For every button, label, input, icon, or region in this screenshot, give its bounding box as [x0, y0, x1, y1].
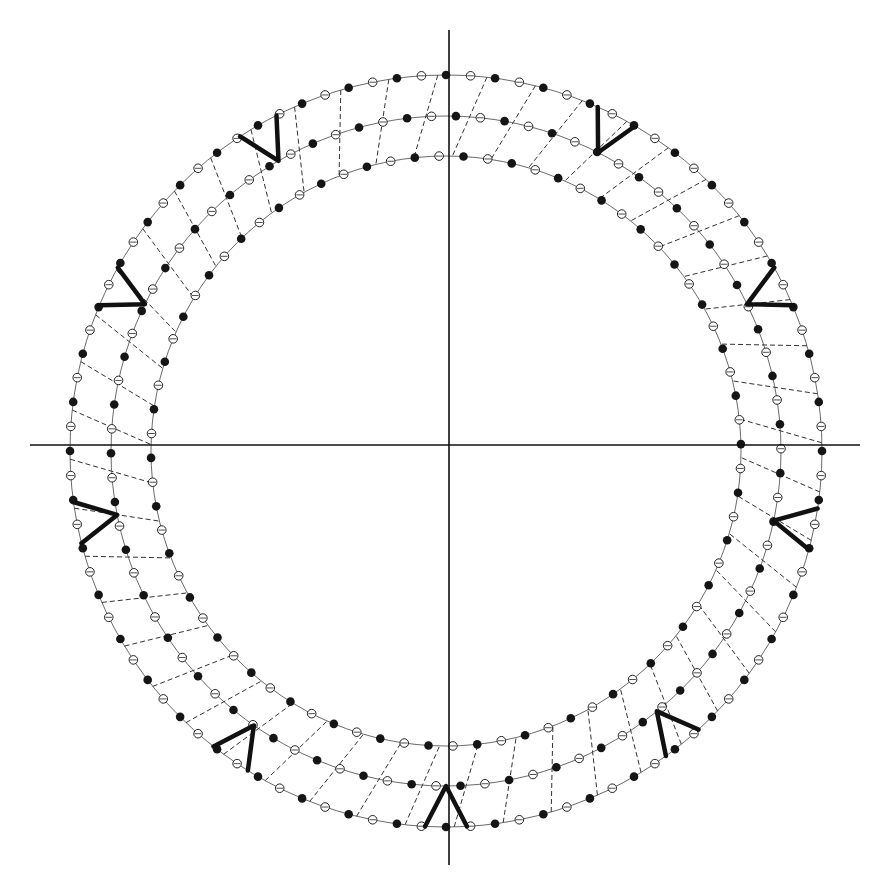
- filled-bead: [317, 179, 326, 188]
- filled-bead: [586, 794, 595, 803]
- axes: [30, 30, 860, 865]
- filled-bead: [679, 622, 688, 631]
- filled-bead: [194, 672, 203, 681]
- filled-bead: [107, 449, 116, 458]
- filled-bead: [734, 488, 743, 497]
- filled-bead: [254, 772, 263, 781]
- diagram-canvas: [0, 0, 880, 889]
- filled-bead: [116, 635, 125, 644]
- ring-outer: [66, 71, 827, 832]
- filled-bead: [500, 117, 509, 126]
- filled-bead: [548, 129, 557, 138]
- filled-bead: [407, 780, 416, 789]
- filled-bead: [539, 810, 548, 819]
- filled-bead: [393, 74, 402, 83]
- filled-bead: [110, 400, 119, 409]
- filled-bead: [254, 121, 263, 130]
- filled-bead: [805, 349, 814, 358]
- filled-bead: [521, 731, 530, 740]
- filled-bead: [213, 148, 222, 157]
- filled-bead: [313, 756, 322, 765]
- filled-bead: [636, 225, 645, 234]
- filled-bead: [269, 734, 278, 743]
- filled-bead: [698, 300, 707, 309]
- filled-bead: [539, 84, 548, 93]
- filled-bead: [66, 447, 75, 456]
- filled-bead: [247, 668, 256, 677]
- filled-bead: [491, 74, 500, 83]
- filled-bead: [708, 713, 717, 722]
- filled-bead: [638, 718, 647, 727]
- filled-bead: [776, 420, 785, 429]
- ring-middle-track: [111, 116, 781, 786]
- filled-bead: [176, 181, 185, 190]
- filled-bead: [137, 307, 146, 316]
- filled-bead: [205, 271, 214, 280]
- filled-bead: [265, 162, 274, 171]
- filled-bead: [673, 204, 682, 213]
- filled-bead: [733, 281, 742, 290]
- filled-bead: [768, 372, 777, 381]
- filled-bead: [491, 819, 500, 828]
- filled-bead: [635, 173, 644, 182]
- filled-bead: [609, 690, 618, 699]
- filled-bead: [424, 741, 433, 750]
- filled-bead: [586, 99, 595, 108]
- ring-middle: [107, 112, 786, 790]
- filled-bead: [473, 740, 482, 749]
- ring-lattice-diagram: [0, 0, 880, 889]
- filled-bead: [191, 225, 200, 234]
- v-marker-icon: [425, 786, 467, 826]
- filled-bead: [147, 454, 156, 463]
- filled-bead: [139, 591, 148, 600]
- filled-bead: [735, 609, 744, 618]
- filled-bead: [723, 536, 732, 545]
- filled-bead: [789, 591, 798, 600]
- filled-bead: [754, 325, 763, 334]
- filled-bead: [456, 781, 465, 790]
- filled-bead: [671, 745, 680, 754]
- v-marker-icon: [774, 509, 818, 550]
- filled-bead: [79, 544, 88, 553]
- filled-bead: [179, 312, 188, 321]
- filled-bead: [186, 593, 195, 602]
- filled-bead: [755, 564, 764, 573]
- filled-bead: [670, 260, 679, 269]
- filled-bead: [152, 502, 161, 511]
- filled-bead: [505, 776, 514, 785]
- filled-bead: [344, 810, 353, 819]
- v-markers: [73, 107, 817, 826]
- filled-bead: [122, 545, 131, 554]
- filled-bead: [452, 112, 461, 121]
- filled-bead: [376, 734, 385, 743]
- filled-bead: [150, 405, 159, 414]
- filled-bead: [403, 114, 412, 123]
- filled-bead: [814, 496, 823, 505]
- filled-bead: [143, 218, 152, 227]
- filled-bead: [704, 581, 713, 590]
- filled-bead: [359, 771, 368, 780]
- filled-bead: [731, 391, 740, 400]
- filled-bead: [286, 697, 295, 706]
- filled-bead: [552, 763, 561, 772]
- filled-bead: [298, 794, 307, 803]
- filled-bead: [94, 591, 103, 600]
- filled-bead: [554, 174, 563, 183]
- filled-bead: [740, 676, 749, 685]
- filled-bead: [671, 148, 680, 157]
- filled-bead: [120, 352, 129, 361]
- bead-rings: [66, 71, 827, 832]
- ring-inner: [147, 152, 745, 750]
- filled-bead: [507, 159, 516, 168]
- filled-bead: [143, 676, 152, 685]
- filled-bead: [708, 650, 717, 659]
- filled-bead: [705, 240, 714, 249]
- filled-bead: [597, 744, 606, 753]
- filled-bead: [229, 706, 238, 715]
- filled-bead: [363, 162, 372, 171]
- filled-bead: [226, 191, 235, 200]
- filled-bead: [237, 234, 246, 243]
- filled-bead: [718, 344, 727, 353]
- filled-bead: [767, 635, 776, 644]
- filled-bead: [630, 772, 639, 781]
